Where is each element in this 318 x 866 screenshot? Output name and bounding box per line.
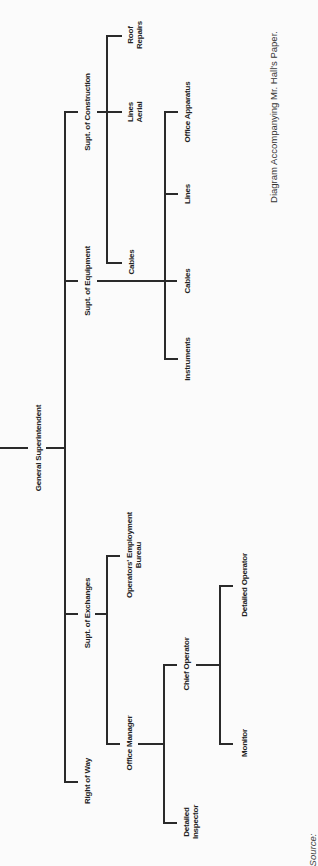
construction-tick-cables xyxy=(106,262,122,264)
node-construction-cables: Cables xyxy=(127,249,136,274)
chief-tick-detailed-operator xyxy=(219,585,233,587)
chief-tick-monitor xyxy=(219,743,233,745)
root-connector-left xyxy=(0,447,28,449)
node-detailed-inspector-line2: Inspector xyxy=(191,805,200,839)
node-supt-exchanges: Supt. of Exchanges xyxy=(83,578,92,649)
node-chief-operator: Chief Operator xyxy=(182,637,191,690)
node-supt-equipment: Supt. of Equipment xyxy=(83,246,92,316)
node-roof-repairs-line1: Roof xyxy=(126,21,135,49)
node-roof-repairs: Roof Repairs xyxy=(126,21,144,49)
node-supt-construction: Supt. of Construction xyxy=(83,73,92,151)
construction-tick-roof xyxy=(106,35,122,37)
right-of-way-tick xyxy=(64,781,78,783)
office-manager-spine xyxy=(163,664,165,823)
node-equipment-lines: Lines xyxy=(183,184,192,204)
node-detailed-inspector-line1: Detailed xyxy=(182,805,191,839)
equipment-tick-lines xyxy=(164,193,178,195)
node-detailed-inspector: Detailed Inspector xyxy=(182,805,200,839)
node-lines-aerial-line2: Aerial xyxy=(135,101,144,122)
equipment-tick-office-apparatus xyxy=(164,111,178,113)
exchanges-tick-bureau xyxy=(106,555,120,557)
node-detailed-operator: Detailed Operator xyxy=(240,553,249,617)
exchanges-spine xyxy=(106,555,108,744)
office-manager-connector xyxy=(138,743,164,745)
root-connector-right xyxy=(46,447,65,449)
chief-operator-spine xyxy=(219,585,221,744)
node-equipment-cables: Cables xyxy=(183,268,192,293)
source-label: Source: xyxy=(307,834,318,866)
exchanges-connector-a xyxy=(64,613,78,615)
chief-operator-connector xyxy=(196,664,220,666)
node-lines-aerial: Lines Aerial xyxy=(126,101,144,122)
exchanges-tick-office-manager xyxy=(106,743,120,745)
node-monitor: Monitor xyxy=(240,729,249,757)
construction-connector-b xyxy=(97,111,122,113)
construction-spine xyxy=(106,35,108,264)
node-instruments: Instruments xyxy=(183,337,192,381)
construction-connector-a xyxy=(64,111,78,113)
main-spine xyxy=(64,111,66,782)
node-office-apparatus: Office Apparatus xyxy=(183,82,192,143)
node-bureau-line2: Bureau xyxy=(134,512,143,598)
office-manager-tick-chief xyxy=(163,664,177,666)
node-operators-employment-bureau: Operators' Employment Bureau xyxy=(125,512,143,598)
node-bureau-line1: Operators' Employment xyxy=(125,512,134,598)
node-lines-aerial-line1: Lines xyxy=(126,101,135,122)
node-roof-repairs-line2: Repairs xyxy=(135,21,144,49)
equipment-tick-instruments xyxy=(164,358,178,360)
equipment-connector-a xyxy=(64,280,78,282)
node-office-manager: Office Manager xyxy=(125,716,134,771)
equipment-spine xyxy=(164,111,166,360)
diagram-caption: Diagram Accompanying Mr. Hall's Paper. xyxy=(268,31,279,203)
office-manager-tick-inspector xyxy=(163,822,177,824)
node-right-of-way: Right of Way xyxy=(83,758,92,804)
node-general-superintendent: General Superintendent xyxy=(34,405,43,491)
